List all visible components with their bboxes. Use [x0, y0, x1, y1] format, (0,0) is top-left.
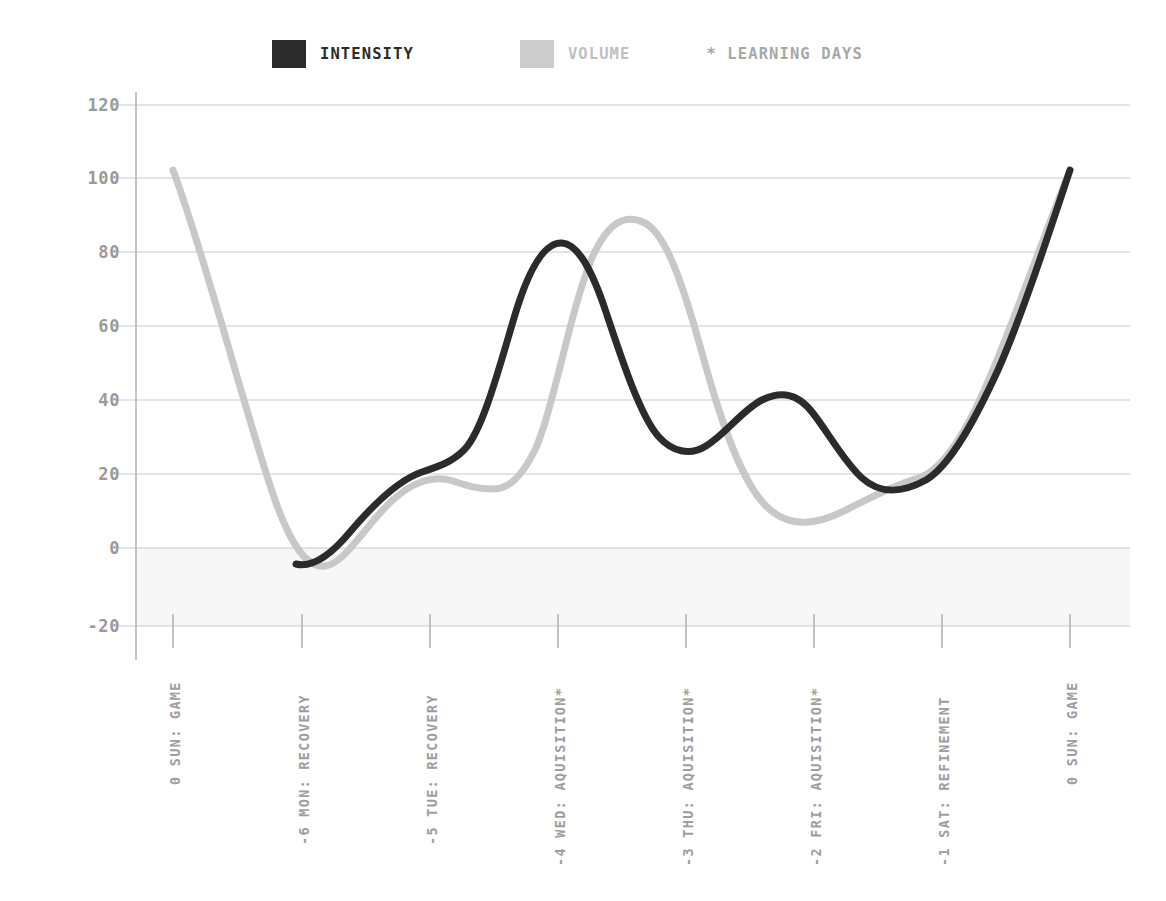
series-line-intensity — [296, 170, 1070, 565]
y-tick-label-120: 120 — [48, 95, 120, 115]
x-tick-label-4: -3 THU: AQUISITION* — [680, 687, 696, 866]
chart-plot-area: 120 100 80 60 40 20 0 -20 0 SUN: GAME -6… — [0, 0, 1166, 901]
y-tick-label-80: 80 — [48, 242, 120, 262]
chart-page: INTENSITY VOLUME * LEARNING DAYS — [0, 0, 1166, 901]
x-tick-label-0: 0 SUN: GAME — [167, 681, 183, 785]
y-tick-label-neg20: -20 — [48, 616, 120, 636]
series-line-volume — [173, 170, 1070, 566]
x-tick-label-6: -1 SAT: REFINEMENT — [936, 696, 952, 866]
x-tick-label-2: -5 TUE: RECOVERY — [424, 694, 440, 845]
y-tick-label-100: 100 — [48, 168, 120, 188]
y-tick-label-60: 60 — [48, 316, 120, 336]
x-tick-label-5: -2 FRI: AQUISITION* — [808, 687, 824, 866]
below-zero-band — [136, 548, 1130, 626]
x-tick-label-7: 0 SUN: GAME — [1064, 681, 1080, 785]
x-tick-label-3: -4 WED: AQUISITION* — [552, 687, 568, 866]
y-tick-label-0: 0 — [48, 538, 120, 558]
x-tick-label-1: -6 MON: RECOVERY — [296, 694, 312, 845]
y-tick-label-20: 20 — [48, 464, 120, 484]
y-tick-label-40: 40 — [48, 390, 120, 410]
